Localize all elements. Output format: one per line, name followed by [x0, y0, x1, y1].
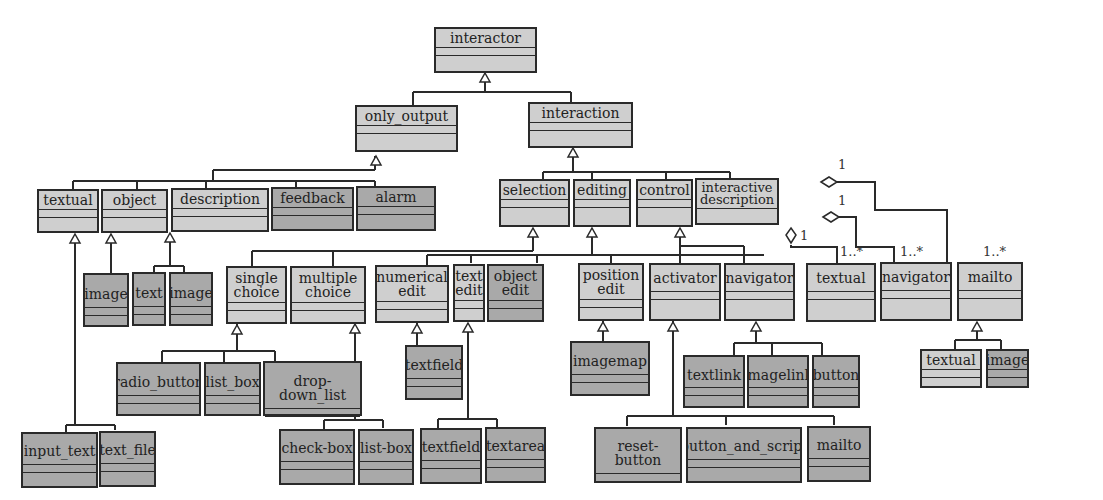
class-button[interactable]: button	[812, 355, 860, 408]
class-selection[interactable]: selection	[499, 179, 570, 227]
class-name: control	[638, 181, 691, 200]
class-navigator[interactable]: navigator	[724, 263, 795, 321]
class-feedback[interactable]: feedback	[271, 187, 354, 231]
class-text[interactable]: text	[132, 272, 166, 326]
class-operations	[206, 404, 259, 414]
class-name: radio_button	[118, 364, 199, 396]
class-imagelink[interactable]: imagelink	[747, 355, 809, 408]
class-text-edit[interactable]: text edit	[453, 264, 485, 322]
class-textual[interactable]: textual	[806, 263, 876, 322]
class-alarm[interactable]: alarm	[356, 186, 436, 231]
class-attributes	[988, 370, 1027, 378]
class-name: activator	[651, 265, 719, 292]
class-input-text[interactable]: input_text	[21, 432, 98, 488]
class-operations	[489, 309, 542, 320]
class-name: button	[814, 357, 858, 388]
aggregation-diamond-icon	[821, 177, 837, 187]
class-interaction[interactable]: interaction	[528, 102, 633, 148]
class-attributes	[489, 301, 542, 309]
class-operations	[575, 208, 629, 225]
class-attributes	[134, 307, 164, 315]
class-attributes	[685, 388, 743, 396]
class-attributes	[273, 208, 352, 216]
class-position-edit[interactable]: position edit	[578, 263, 644, 321]
class-attributes	[173, 209, 267, 217]
class-attributes	[422, 461, 480, 469]
class-object[interactable]: object	[101, 189, 168, 233]
generalization-arrow-icon	[350, 324, 360, 333]
class-attributes	[206, 396, 259, 404]
class-only-output[interactable]: only_output	[355, 105, 458, 152]
class-attributes	[377, 302, 447, 310]
class-list-box[interactable]: list_box	[204, 362, 261, 416]
class-attributes	[103, 210, 166, 218]
class-attributes	[360, 462, 412, 470]
class-operations	[118, 404, 199, 414]
multiplicity-label: 1	[838, 193, 846, 208]
class-image[interactable]: image	[986, 349, 1029, 388]
class-operations	[358, 215, 434, 229]
class-operations	[959, 299, 1021, 319]
class-multiple-choice[interactable]: multiple choice	[290, 266, 366, 324]
class-name: input_text	[23, 434, 96, 465]
class-text-file[interactable]: text_file	[99, 431, 156, 487]
class-operations	[501, 208, 568, 225]
class-name: check-box	[281, 431, 353, 462]
class-imagemap[interactable]: imagemap	[570, 341, 650, 396]
class-mailto[interactable]: mailto	[957, 262, 1023, 321]
class-operations	[103, 218, 166, 231]
multiplicity-label: 1..*	[840, 244, 863, 259]
class-name: textual	[808, 265, 874, 292]
class-activator[interactable]: activator	[649, 263, 721, 321]
class-operations	[422, 469, 480, 482]
class-name: button_and_script	[688, 429, 800, 460]
class-name: navigator	[726, 265, 793, 292]
class-navigator[interactable]: navigator	[880, 262, 952, 321]
class-name: textual	[39, 191, 97, 210]
class-name: numerical edit	[377, 267, 447, 302]
class-numerical-edit[interactable]: numerical edit	[375, 265, 449, 323]
class-reset-button[interactable]: reset-button	[594, 427, 682, 483]
class-operations	[134, 315, 164, 324]
class-image[interactable]: image	[169, 272, 213, 326]
class-textlink[interactable]: textlink	[683, 355, 745, 408]
class-single-choice[interactable]: single choice	[226, 266, 287, 324]
class-radio-button[interactable]: radio_button	[116, 362, 201, 416]
class-list-box[interactable]: list-box	[358, 429, 414, 485]
class-operations	[487, 468, 544, 481]
class-attributes	[580, 300, 642, 308]
generalization-arrow-icon	[751, 322, 761, 331]
class-textfield[interactable]: textfield	[405, 345, 463, 400]
class-name: text	[134, 274, 164, 307]
class-attributes	[596, 474, 680, 482]
class-textfield[interactable]: textfield	[420, 428, 482, 484]
class-attributes	[638, 200, 691, 208]
class-editing[interactable]: editing	[573, 179, 631, 227]
generalization-arrow-icon	[528, 228, 538, 237]
class-description[interactable]: description	[171, 188, 269, 232]
generalization-arrow-icon	[70, 234, 80, 243]
class-attributes	[959, 291, 1021, 299]
generalization-arrow-icon	[587, 228, 597, 237]
class-name: position edit	[580, 265, 642, 300]
class-image[interactable]: image	[83, 273, 129, 327]
class-check-box[interactable]: check-box	[279, 429, 355, 485]
class-drop-down-list[interactable]: drop-down_list	[263, 361, 362, 416]
class-name: navigator	[882, 264, 950, 291]
class-operations	[922, 378, 980, 386]
class-attributes	[228, 303, 285, 311]
class-button-and-script[interactable]: button_and_script	[686, 427, 802, 483]
class-operations	[814, 396, 858, 406]
generalization-arrow-icon	[232, 325, 242, 334]
class-control[interactable]: control	[636, 179, 693, 227]
class-interactive-description[interactable]: interactive description	[695, 178, 779, 225]
class-textarea[interactable]: textarea	[485, 427, 546, 483]
class-textual[interactable]: textual	[37, 189, 99, 233]
class-name: only_output	[357, 107, 456, 126]
class-textual[interactable]: textual	[920, 349, 982, 388]
class-object-edit[interactable]: object edit	[487, 264, 544, 322]
class-attributes	[501, 200, 568, 208]
class-attributes	[575, 200, 629, 208]
class-interactor[interactable]: interactor	[434, 27, 537, 73]
class-mailto[interactable]: mailto	[807, 426, 871, 482]
